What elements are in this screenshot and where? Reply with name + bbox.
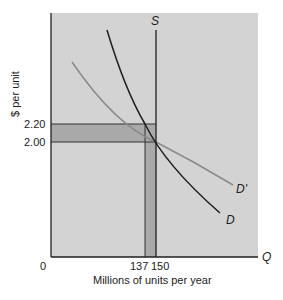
supply-label: S <box>151 14 159 28</box>
q-axis-label: Q <box>262 250 271 264</box>
y-tick-2-00: 2.00 <box>24 136 45 148</box>
quantity-band <box>145 142 156 257</box>
x-tick-137: 137 <box>130 260 148 272</box>
y-axis-title: $ per unit <box>9 71 21 117</box>
demand-label: D <box>226 213 235 227</box>
y-tick-2-20: 2.20 <box>24 118 45 130</box>
demand-prime-label: D' <box>236 182 248 196</box>
supply-demand-diagram: S D' D Q 2.20 2.00 0 137 150 Millions of… <box>0 0 283 300</box>
x-tick-150: 150 <box>151 260 169 272</box>
origin-label: 0 <box>40 260 46 272</box>
x-axis-title: Millions of units per year <box>93 274 212 286</box>
